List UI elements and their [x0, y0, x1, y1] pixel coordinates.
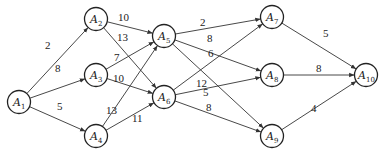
- arrow-icon: [282, 81, 357, 129]
- edge-weight-label: 5: [203, 86, 209, 98]
- edge-weight-label: 5: [57, 100, 63, 112]
- edge-weight-label: 4: [311, 102, 317, 114]
- edge-weight-label: 8: [207, 32, 213, 44]
- edge-a6-a9: [175, 101, 261, 132]
- node-a2: A2: [85, 8, 108, 31]
- edges-layer: [27, 19, 357, 132]
- edge-weight-label: 2: [45, 39, 51, 51]
- node-a6: A6: [153, 86, 176, 109]
- edge-a5-a7: [175, 19, 260, 34]
- edge-weight-label: 11: [132, 112, 143, 124]
- arrow-icon: [175, 19, 260, 34]
- node-a10: A10: [355, 64, 378, 87]
- arrow-icon: [175, 101, 261, 132]
- edge-weight-label: 8: [55, 62, 61, 74]
- node-a7: A7: [261, 6, 284, 29]
- edge-weight-label: 8: [316, 62, 322, 74]
- arrow-icon: [175, 77, 260, 94]
- node-a3: A3: [85, 64, 108, 87]
- edge-a5-a8: [175, 40, 261, 71]
- arrow-icon: [175, 40, 261, 71]
- edge-weight-label: 13: [117, 31, 129, 43]
- node-a4: A4: [85, 125, 108, 148]
- arrow-icon: [107, 22, 153, 33]
- edge-weight-label: 13: [106, 104, 118, 116]
- edge-a1-a2: [27, 27, 88, 93]
- node-a8: A8: [261, 64, 284, 87]
- network-diagram: 285101371013112861258584 A1A2A3A4A5A6A7A…: [0, 0, 386, 154]
- edge-a6-a8: [175, 77, 260, 94]
- edge-weight-label: 5: [323, 27, 329, 39]
- node-a9: A9: [261, 125, 284, 148]
- node-a5: A5: [153, 25, 176, 48]
- edge-weight-label: 10: [113, 72, 125, 84]
- edge-weight-label: 7: [114, 51, 120, 63]
- nodes-layer: A1A2A3A4A5A6A7A8A9A10: [8, 6, 378, 148]
- arrow-icon: [27, 27, 88, 93]
- edge-a2-a5: [107, 22, 153, 33]
- edge-weight-label: 10: [118, 11, 130, 23]
- edge-weight-label: 6: [208, 47, 214, 59]
- node-a1: A1: [8, 91, 31, 114]
- edge-a9-a10: [282, 81, 357, 129]
- edge-weight-label: 2: [200, 16, 206, 28]
- edge-weight-label: 8: [206, 101, 212, 113]
